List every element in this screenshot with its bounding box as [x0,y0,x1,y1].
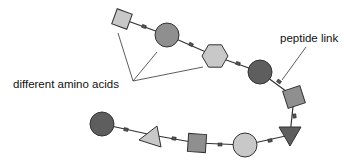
residue-circle-mid [155,23,179,47]
link-marker [172,137,176,141]
link-marker [142,24,147,28]
link-marker [277,79,282,84]
residue-hexagon-light [202,45,228,67]
label-different-amino-acids: different amino acids [13,78,119,90]
residue-square-light [112,9,133,30]
residue-circle-light [233,133,257,157]
residue-circle-dark [248,60,272,84]
residue-square-mid-2 [187,133,206,152]
residue-square-mid [283,86,306,109]
peptide-link-markers [124,24,297,146]
link-marker [236,61,241,65]
leader-to-square [118,33,133,81]
link-marker [268,139,273,143]
residue-circle-dark-2 [90,112,114,136]
residue-triangle-light [139,126,161,147]
leader-to-hexagon [133,67,203,81]
link-marker [218,143,222,146]
amino-acid-residues [90,9,305,157]
label-peptide-link: peptide link [280,32,338,44]
leader-peptide-link [282,47,306,80]
link-marker [124,128,129,132]
link-marker [293,114,297,118]
peptide-chain-diagram: different amino acids peptide link [0,0,355,165]
link-marker [189,42,194,46]
